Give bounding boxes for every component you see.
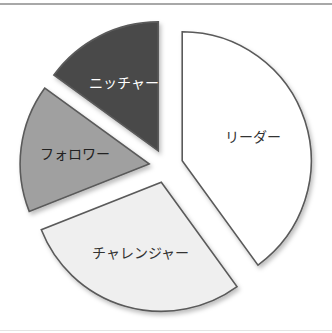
slice-leader [182, 32, 311, 265]
slice-follower-label: フォロワー [40, 146, 110, 162]
slice-leader-label: リーダー [225, 129, 281, 145]
slice-nicher-label: ニッチャー [89, 75, 159, 91]
slice-challenger-label: チャレンジャー [92, 245, 189, 261]
pie-chart: リーダーチャレンジャーフォロワーニッチャー [0, 0, 332, 333]
